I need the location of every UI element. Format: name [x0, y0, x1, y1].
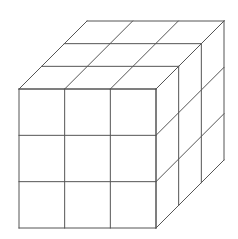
top-diagonal-line: [65, 21, 133, 89]
right-diagonal-line: [156, 67, 224, 135]
cube-drawing: [0, 0, 238, 239]
right-diagonal-line: [156, 21, 224, 89]
right-diagonal-line: [156, 114, 224, 182]
cube-right-face: [156, 21, 224, 228]
top-diagonal-line: [110, 21, 178, 89]
cube-figure: [0, 0, 238, 239]
top-diagonal-line: [19, 21, 87, 89]
cube-front-face: [19, 89, 156, 228]
cube-top-face: [19, 21, 224, 89]
right-diagonal-line: [156, 160, 224, 228]
